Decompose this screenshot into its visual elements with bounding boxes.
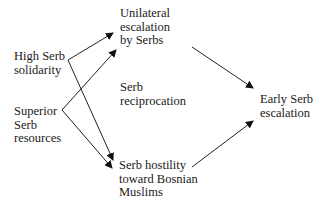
node-label-line: High Serb [14, 50, 65, 64]
node-label-line: Serb [120, 81, 186, 95]
node-reciprocation: Serbreciprocation [120, 81, 186, 108]
arrow-solidarity-to-hostility [68, 60, 113, 160]
arrow-hostility-to-early [192, 121, 253, 167]
node-label-line: Early Serb [260, 93, 313, 107]
node-label-line: solidarity [14, 64, 65, 78]
node-label-line: Serb hostility [119, 159, 198, 173]
node-label-line: Serb [14, 119, 61, 133]
node-hostility: Serb hostilitytoward BosnianMuslims [119, 159, 198, 200]
node-label-line: Unilateral [120, 7, 170, 21]
node-label-line: reciprocation [120, 95, 186, 109]
node-label-line: by Serbs [120, 34, 170, 48]
arrow-unilateral-to-early [192, 47, 253, 88]
node-label-line: escalation [260, 107, 313, 121]
node-label-line: toward Bosnian [119, 173, 198, 187]
node-label-line: Muslims [119, 186, 198, 200]
node-early: Early Serbescalation [260, 93, 313, 120]
node-label-line: escalation [120, 21, 170, 35]
arrow-resources-to-hostility [62, 110, 112, 168]
node-unilateral: Unilateralescalationby Serbs [120, 7, 170, 48]
node-label-line: Superior [14, 105, 61, 119]
node-solidarity: High Serbsolidarity [14, 50, 65, 77]
arrow-solidarity-to-unilateral [68, 33, 113, 60]
node-resources: SuperiorSerbresources [14, 105, 61, 146]
node-label-line: resources [14, 132, 61, 146]
